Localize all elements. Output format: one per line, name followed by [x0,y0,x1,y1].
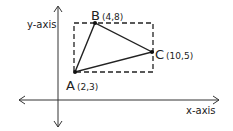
point-c-name: C [155,47,164,62]
point-a-dot [73,70,77,74]
point-a-coords: (2,3) [77,82,98,92]
x-axis-label: x-axis [186,106,216,116]
x-axis-line [19,96,219,104]
triangle-abc [75,23,152,72]
point-c-dot [150,50,154,54]
bounding-box-dashed [74,23,153,72]
point-c-coords: (10,5) [166,51,193,61]
point-c-label: C(10,5) [155,46,193,62]
point-a-label: A(2,3) [66,77,98,93]
point-a-name: A [66,78,75,93]
point-b-label: B(4,8) [91,7,123,23]
point-b-name: B [91,8,100,23]
point-b-coords: (4,8) [102,12,123,22]
y-axis-label: y-axis [27,20,56,30]
